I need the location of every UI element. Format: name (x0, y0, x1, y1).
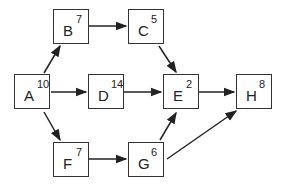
node-b: B 7 (53, 9, 89, 44)
node-duration: 8 (259, 78, 265, 90)
node-label: B (63, 22, 73, 39)
node-label: G (138, 155, 150, 172)
node-duration: 7 (76, 13, 82, 25)
node-duration: 5 (151, 13, 157, 25)
edge-g-e (160, 113, 176, 140)
node-duration: 14 (111, 78, 123, 90)
edge-c-e (159, 46, 176, 72)
node-label: C (138, 22, 149, 39)
node-f: F 7 (53, 142, 89, 177)
node-duration: 7 (76, 146, 82, 158)
edge-g-h (167, 111, 236, 159)
node-h: H 8 (236, 74, 272, 109)
node-label: D (98, 87, 109, 104)
edge-a-b (44, 46, 60, 73)
node-label: E (173, 87, 183, 104)
node-c: C 5 (128, 9, 164, 44)
node-g: G 6 (128, 142, 164, 177)
node-duration: 10 (37, 78, 49, 90)
edge-a-f (44, 112, 60, 140)
node-duration: 6 (151, 146, 157, 158)
node-a: A 10 (14, 74, 50, 109)
node-d: D 14 (88, 74, 124, 109)
node-label: H (246, 87, 257, 104)
node-e: E 2 (163, 74, 199, 109)
node-duration: 2 (186, 78, 192, 90)
node-label: F (63, 155, 72, 172)
node-label: A (24, 87, 34, 104)
